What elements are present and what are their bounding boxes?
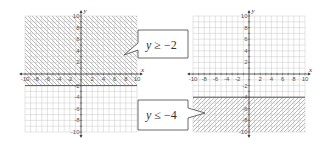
x-tick-label: -8: [34, 76, 40, 82]
x-tick-label: -4: [224, 76, 230, 82]
x-axis-label: x: [140, 66, 145, 74]
y-tick-label: -6: [74, 106, 80, 112]
y-tick-label: -2: [242, 83, 248, 89]
y-tick-label: 10: [241, 13, 248, 19]
inequality-graphs: -10-8-6-4-2246810108642-2-4-6-8-10xy -10…: [0, 0, 327, 152]
x-tick-label: -8: [202, 76, 208, 82]
x-tick-label: 6: [281, 76, 285, 82]
x-tick-label: -2: [67, 76, 73, 82]
y-tick-label: -10: [239, 129, 248, 135]
callout-bottom-text: y ≤ −4: [145, 108, 177, 122]
y-axis-label: y: [251, 7, 256, 15]
callout-top-text: y ≥ −2: [145, 38, 177, 52]
x-axis-label: x: [308, 66, 313, 74]
y-tick-label: -6: [242, 106, 248, 112]
graph-y-ge-neg2: -10-8-6-4-2246810108642-2-4-6-8-10xy: [19, 7, 145, 138]
y-tick-label: -10: [71, 129, 80, 135]
x-tick-label: -4: [56, 76, 62, 82]
x-tick-label: 2: [259, 76, 263, 82]
x-tick-label: 10: [302, 76, 309, 82]
y-tick-label: -8: [242, 117, 248, 123]
y-tick-label: 10: [73, 13, 80, 19]
y-tick-label: -8: [74, 117, 80, 123]
y-tick-label: -2: [74, 83, 80, 89]
x-tick-label: 8: [292, 76, 296, 82]
x-tick-label: -6: [45, 76, 51, 82]
x-tick-label: 4: [270, 76, 274, 82]
x-tick-label: 10: [134, 76, 141, 82]
x-tick-label: -10: [21, 76, 30, 82]
graph-y-le-neg4: -10-8-6-4-2246810108642-2-4-6-8-10xy: [187, 7, 313, 138]
y-tick-label: -4: [242, 94, 248, 100]
y-axis-label: y: [83, 7, 88, 15]
y-tick-label: -4: [74, 94, 80, 100]
x-tick-label: -6: [213, 76, 219, 82]
x-tick-label: -2: [235, 76, 241, 82]
x-tick-label: -10: [189, 76, 198, 82]
